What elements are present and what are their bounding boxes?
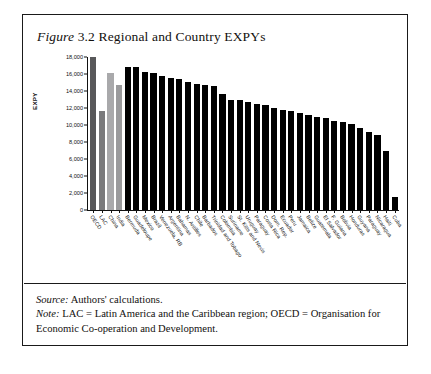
bar: [323, 118, 329, 210]
x-tick-mark: [231, 210, 232, 213]
y-axis-ticks: 02,0004,0006,0008,00010,00012,00014,0001…: [63, 57, 87, 210]
bar: [211, 86, 217, 210]
x-tick-mark: [93, 210, 94, 213]
bar: [348, 124, 354, 210]
bar: [331, 121, 337, 210]
y-tick-label: 10,000: [66, 122, 83, 128]
bar: [116, 85, 122, 210]
x-tick-mark: [352, 210, 353, 213]
bar: [185, 82, 191, 210]
bar-slot: [98, 57, 107, 210]
y-tick-label: 16,000: [66, 71, 83, 77]
x-tick-mark: [395, 210, 396, 213]
bar: [125, 67, 131, 210]
bar-slot: [210, 57, 219, 210]
bar: [176, 79, 182, 210]
x-tick-mark: [369, 210, 370, 213]
x-tick-mark: [274, 210, 275, 213]
bar: [107, 73, 113, 210]
bar-slot: [373, 57, 382, 210]
x-tick-mark: [188, 210, 189, 213]
bar: [297, 113, 303, 210]
y-tick-label: 4,000: [69, 173, 83, 179]
bar: [254, 104, 260, 210]
bar-slot: [149, 57, 158, 210]
bar-slot: [141, 57, 150, 210]
x-tick-mark: [334, 210, 335, 213]
bar: [168, 78, 174, 210]
x-tick-mark: [386, 210, 387, 213]
x-tick-mark: [240, 210, 241, 213]
x-tick-mark: [205, 210, 206, 213]
bar: [142, 72, 148, 210]
bar: [305, 115, 311, 210]
bar: [90, 57, 96, 210]
bar-slot: [304, 57, 313, 210]
bar: [150, 73, 156, 210]
bar-slot: [330, 57, 339, 210]
x-tick-mark: [197, 210, 198, 213]
x-tick-mark: [309, 210, 310, 213]
source-line: Source: Authors' calculations.: [36, 293, 394, 308]
bar: [288, 111, 294, 210]
bar-slot: [339, 57, 348, 210]
x-tick-mark: [179, 210, 180, 213]
bar: [366, 132, 372, 210]
bar: [245, 102, 251, 210]
note-line: Note: LAC = Latin America and the Caribb…: [36, 307, 394, 336]
y-tick-label: 14,000: [66, 88, 83, 94]
bar-slot: [382, 57, 391, 210]
x-tick-mark: [291, 210, 292, 213]
x-tick-mark: [300, 210, 301, 213]
bar: [314, 117, 320, 210]
figure-frame: Figure 3.2 Regional and Country EXPYs EX…: [22, 14, 408, 346]
bar: [237, 100, 243, 210]
bar-slot: [201, 57, 210, 210]
x-tick-mark: [283, 210, 284, 213]
bar: [202, 85, 208, 210]
source-label: Source:: [36, 294, 69, 305]
source-text: Authors' calculations.: [71, 294, 163, 305]
bar: [340, 122, 346, 210]
note-text: LAC = Latin America and the Caribbean re…: [36, 308, 380, 334]
bar: [228, 100, 234, 211]
bar-slot: [175, 57, 184, 210]
bar: [271, 108, 277, 210]
bar-slot: [347, 57, 356, 210]
x-tick-mark: [326, 210, 327, 213]
bar: [194, 84, 200, 210]
figure-title: Figure 3.2 Regional and Country EXPYs: [37, 29, 266, 45]
bar-slot: [166, 57, 175, 210]
x-tick-mark: [119, 210, 120, 213]
figure-title-text: Regional and Country EXPYs: [99, 29, 266, 44]
bar-slot: [365, 57, 374, 210]
bar-slot: [321, 57, 330, 210]
x-tick-mark: [145, 210, 146, 213]
bar-slot: [253, 57, 262, 210]
x-tick-mark: [257, 210, 258, 213]
y-tick-label: 2,000: [69, 190, 83, 196]
bar: [383, 151, 389, 211]
x-tick-mark: [265, 210, 266, 213]
bar-slot: [115, 57, 124, 210]
x-tick-mark: [317, 210, 318, 213]
bar-slot: [89, 57, 98, 210]
bar-slot: [356, 57, 365, 210]
bar-slot: [244, 57, 253, 210]
bar: [392, 197, 398, 210]
bar-slot: [296, 57, 305, 210]
x-tick-label: Cuba: [391, 214, 403, 228]
figure-number: 3.2: [78, 29, 95, 44]
bar: [219, 94, 225, 210]
bar-slot: [227, 57, 236, 210]
bar-series: [89, 57, 399, 210]
bar-slot: [278, 57, 287, 210]
bar-slot: [106, 57, 115, 210]
x-tick-mark: [222, 210, 223, 213]
bar: [159, 76, 165, 210]
bar-slot: [261, 57, 270, 210]
bar-slot: [132, 57, 141, 210]
bar-slot: [218, 57, 227, 210]
bar: [133, 67, 139, 210]
x-tick-mark: [102, 210, 103, 213]
